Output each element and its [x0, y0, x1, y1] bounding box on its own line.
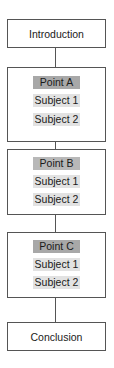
section-c-subject-2: Subject 2	[33, 276, 80, 289]
point-c-label: Point C	[33, 240, 80, 253]
introduction-box: Introduction	[7, 19, 106, 48]
section-a-subject-1: Subject 1	[33, 94, 80, 107]
section-b-box: Point B Subject 1 Subject 2	[7, 149, 106, 215]
connector-b-to-c	[55, 215, 56, 232]
conclusion-box: Conclusion	[7, 322, 106, 351]
connector-c-to-conclusion	[55, 298, 56, 322]
section-a-subject-2: Subject 2	[33, 113, 80, 126]
section-c-subject-1: Subject 1	[33, 258, 80, 271]
section-c-box: Point C Subject 1 Subject 2	[7, 232, 106, 298]
connector-intro-to-a	[55, 48, 56, 67]
introduction-label: Introduction	[29, 28, 84, 40]
point-b-label: Point B	[33, 157, 80, 170]
conclusion-label: Conclusion	[31, 331, 83, 343]
section-b-subject-1: Subject 1	[33, 175, 80, 188]
section-b-subject-2: Subject 2	[33, 193, 80, 206]
point-a-label: Point A	[33, 76, 80, 89]
section-a-box: Point A Subject 1 Subject 2	[7, 67, 106, 142]
